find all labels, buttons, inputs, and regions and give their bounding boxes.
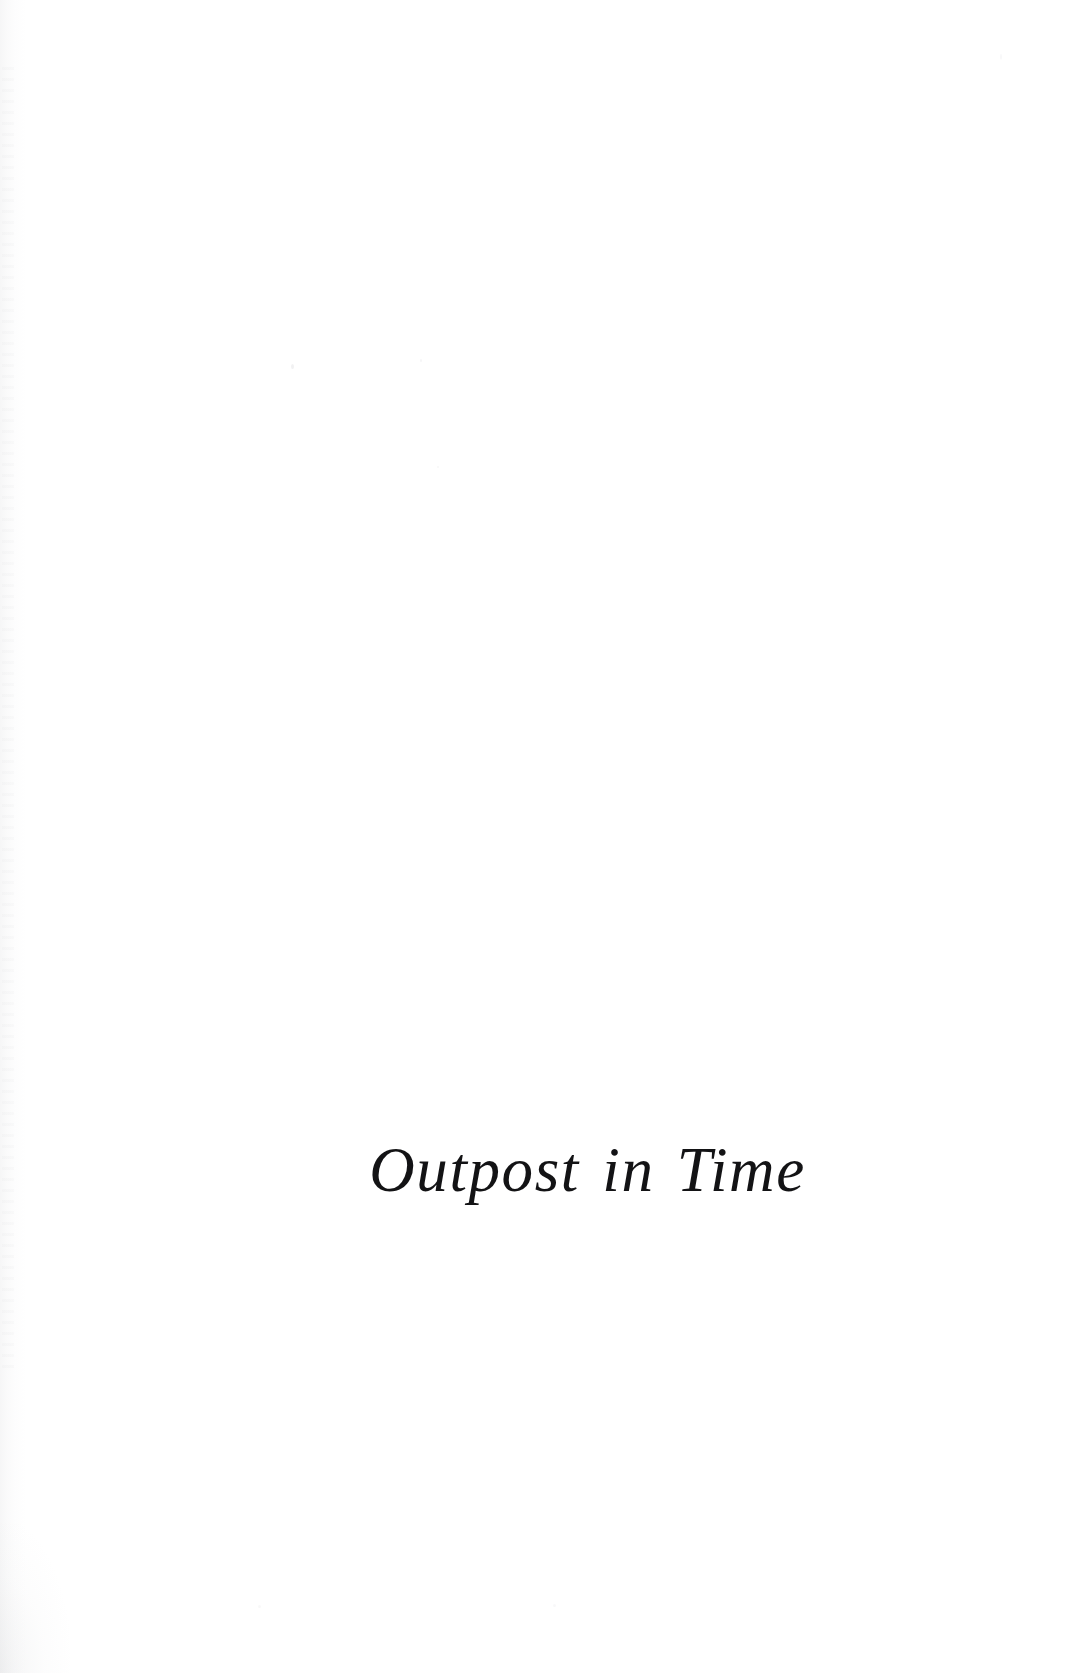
scan-speck <box>258 1605 261 1608</box>
document-page: Outpost in Time <box>0 0 1077 1673</box>
scan-speck <box>1000 54 1002 60</box>
page-title: Outpost in Time <box>369 1126 806 1214</box>
scan-edge-shading <box>0 0 26 1673</box>
scan-speck <box>420 359 422 362</box>
scan-speck <box>291 364 294 369</box>
scan-corner-shading <box>0 1523 70 1673</box>
scan-speck <box>437 466 439 468</box>
scan-speck <box>553 1604 556 1607</box>
half-title-block: Outpost in Time <box>0 1126 1077 1214</box>
